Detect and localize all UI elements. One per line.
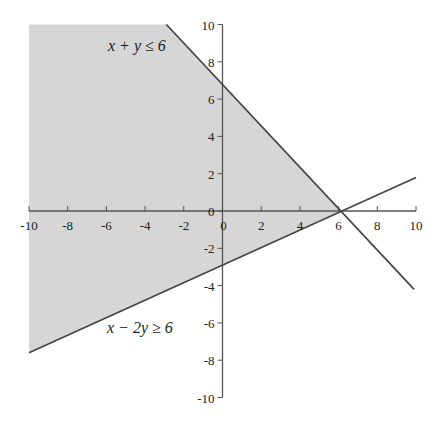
y-tick-label: -8 <box>204 353 215 368</box>
inequality-chart: -10-8-6-4-202468101086420-2-4-6-8-10 x +… <box>0 0 444 426</box>
x-tick-label: -8 <box>62 218 73 233</box>
y-tick-label: -6 <box>204 316 215 331</box>
x-tick-label: 10 <box>410 218 423 233</box>
y-tick-label: -10 <box>197 391 214 406</box>
x-tick-label: -4 <box>140 218 151 233</box>
lower-inequality-label: x − 2y ≥ 6 <box>106 319 173 337</box>
x-tick-label: -10 <box>20 218 37 233</box>
y-tick-label: 4 <box>208 129 215 144</box>
y-tick-label: 0 <box>208 204 215 219</box>
x-tick-label: 0 <box>220 218 227 233</box>
x-tick-label: -2 <box>178 218 189 233</box>
x-tick-label: -6 <box>101 218 112 233</box>
y-tick-label: 6 <box>208 92 215 107</box>
x-tick-label: 2 <box>258 218 265 233</box>
y-tick-label: 2 <box>208 167 215 182</box>
y-tick-label: 8 <box>208 55 215 70</box>
x-tick-label: 4 <box>297 218 304 233</box>
x-tick-label: 8 <box>374 218 381 233</box>
y-tick-label: -4 <box>204 279 215 294</box>
x-tick-label: 6 <box>335 218 342 233</box>
y-tick-label: -2 <box>204 241 215 256</box>
shaded-region <box>29 25 341 353</box>
feasible-region <box>29 25 341 353</box>
y-tick-label: 10 <box>202 18 215 33</box>
upper-inequality-label: x + y ≤ 6 <box>107 37 166 55</box>
